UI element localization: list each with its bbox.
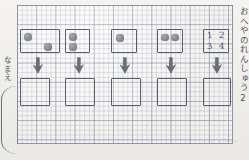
key-number: 4 (219, 42, 225, 51)
key-number: 1 (207, 31, 213, 40)
prompt-dot (171, 34, 179, 42)
arrow-down-icon (118, 57, 132, 74)
arrow-down-icon (72, 57, 86, 74)
graph-paper-grid (17, 5, 233, 144)
page-title: おへやのれんしゅう2 (238, 7, 247, 103)
worksheet-page: 1 2 3 4 おへやのれんしゅう2 なまえ • • • ••• · (0, 0, 249, 160)
arrow-down-icon (210, 57, 224, 74)
prompt-dot (69, 33, 77, 41)
key-box-numbers: 1 2 3 4 (203, 29, 229, 53)
answer-box-2[interactable] (65, 78, 95, 106)
answer-box-1[interactable] (20, 78, 50, 106)
arrow-down-icon (164, 57, 178, 74)
answer-box-3[interactable] (111, 78, 141, 106)
answer-box-4[interactable] (157, 78, 187, 106)
prompt-box-1 (20, 29, 60, 53)
prompt-box-3 (111, 29, 137, 53)
answer-box-5[interactable] (203, 78, 231, 106)
prompt-dot (24, 33, 32, 41)
prompt-box-4 (157, 29, 183, 53)
stray-pencil-mark: · (62, 133, 63, 138)
prompt-dot (69, 43, 77, 51)
prompt-box-2 (65, 29, 90, 53)
key-number: 2 (219, 31, 225, 40)
prompt-dot (116, 34, 124, 42)
key-number: 3 (207, 42, 213, 51)
faint-bottom-marks: • • • ••• (203, 139, 239, 144)
prompt-dot (161, 34, 169, 42)
name-field-bracket[interactable] (1, 86, 17, 154)
arrow-down-icon (31, 57, 45, 74)
prompt-dot (44, 43, 52, 51)
name-field-label: なまえ (3, 56, 11, 82)
